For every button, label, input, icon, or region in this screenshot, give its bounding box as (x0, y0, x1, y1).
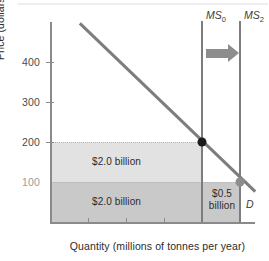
reference-line-price-200 (50, 142, 202, 143)
y-tick-100: 100 (46, 182, 54, 183)
y-axis-line (50, 22, 52, 222)
x-tick-15: 15 (164, 218, 165, 224)
ms0-curve-label-sub: 0 (222, 15, 226, 24)
x-axis-title: Quantity (millions of tonnes per year) (50, 240, 265, 252)
plot-area: 400 300 200 100 0 5 10 15 20 25 (50, 22, 255, 222)
x-tick-5: 5 (88, 218, 89, 224)
y-axis-title: Price (dollars per tonne) (0, 0, 6, 60)
top-divider-rule (18, 3, 268, 5)
y-tick-label-400: 400 (22, 56, 40, 68)
ms0-curve-label: MS0 (206, 9, 226, 24)
x-tick-10: 10 (126, 218, 127, 224)
demand-curve-label: D (246, 198, 254, 210)
ms2-curve-label: MS2 (244, 9, 264, 24)
y-tick-label-100: 100 (22, 176, 40, 188)
y-tick-label-300: 300 (22, 96, 40, 108)
extra-area-value-label: $0.5 billion (203, 188, 241, 211)
y-tick-400: 400 (46, 62, 54, 63)
x-axis-line (50, 222, 255, 224)
extra-area-value-line1: $0.5 (212, 188, 232, 199)
equilibrium-point-initial (198, 138, 207, 147)
x-tick-0: 0 (50, 218, 51, 224)
ms0-curve-label-text: MS (206, 9, 222, 21)
upper-area-value-label: $2.0 billion (92, 156, 141, 167)
equilibrium-point-new (236, 178, 245, 187)
right-arrow-shaft (206, 49, 228, 58)
y-tick-200: 200 (46, 142, 54, 143)
ms2-curve-label-sub: 2 (260, 15, 264, 24)
economics-chart-figure: Price (dollars per tonne) 400 300 200 10… (0, 0, 269, 261)
extra-area-value-line2: billion (209, 200, 235, 211)
ms2-curve-label-text: MS (244, 9, 260, 21)
reference-line-price-100 (50, 182, 240, 183)
lower-area-value-label: $2.0 billion (92, 196, 141, 207)
y-tick-label-200: 200 (22, 136, 40, 148)
supply-shift-arrow (206, 44, 239, 62)
right-arrow-icon (228, 44, 239, 62)
demand-curve-label-text: D (246, 198, 254, 210)
y-tick-300: 300 (46, 102, 54, 103)
